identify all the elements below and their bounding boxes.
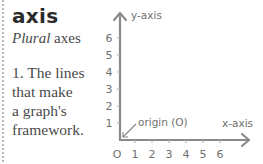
x-tick-label: 3 [166, 148, 173, 161]
origin-label: origin (O) [138, 116, 188, 128]
x-tick-label: O [113, 148, 122, 161]
y-tick-label: 4 [106, 66, 113, 79]
y-tick-label: 1 [106, 117, 113, 130]
x-axis-label: x-axis [222, 117, 253, 129]
x-tick-label: 1 [132, 148, 139, 161]
axes-diagram: 6 5 4 3 2 1 O 1 2 3 4 5 6 y-axis x-axis … [0, 0, 263, 164]
y-tick-label: 6 [106, 32, 113, 45]
x-tick-label: 5 [200, 148, 207, 161]
y-tick-label: 2 [106, 100, 113, 113]
origin-pointer-line [123, 124, 136, 137]
y-tick-label: 3 [106, 83, 113, 96]
x-tick-label: 4 [183, 148, 190, 161]
x-tick-label: 6 [217, 148, 224, 161]
y-tick-label: 5 [106, 49, 113, 62]
y-axis-label: y-axis [131, 9, 162, 21]
x-tick-label: 2 [149, 148, 156, 161]
